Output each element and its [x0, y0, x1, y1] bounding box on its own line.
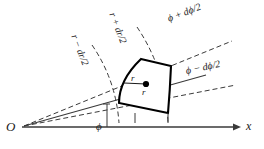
polar-area-element-figure: O x ϕ r r ϕ + dϕ/2 ϕ − dϕ/2 r + dr/2 r −…	[0, 0, 264, 149]
radius-r-label: r	[131, 74, 135, 83]
arc-r-minus	[92, 45, 119, 123]
ray-phi-center	[24, 75, 206, 126]
origin-label: O	[6, 120, 15, 133]
angle-phi-label: ϕ	[96, 121, 102, 132]
point-radius-label: r	[142, 88, 146, 97]
x-axis-arrowhead	[233, 124, 241, 131]
x-axis-label: x	[246, 120, 251, 132]
x-axis	[22, 124, 241, 131]
